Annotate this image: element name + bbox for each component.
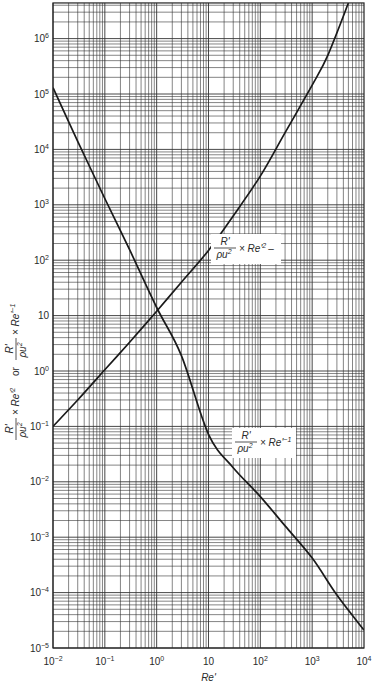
y-title-or: or: [10, 366, 21, 376]
svg-text:R': R': [241, 430, 251, 441]
svg-text:R': R': [220, 236, 230, 247]
x-axis-title: Re': [201, 672, 217, 683]
svg-text:R': R': [4, 423, 15, 433]
x-axis-title-text: Re': [201, 672, 217, 683]
log-log-chart: R'ρu2× Re'2–R'ρu2× Re'−1 106105104103102…: [0, 0, 378, 684]
annotation-suffix: × Re'2–: [239, 242, 274, 254]
annotation-suffix: × Re'2: [9, 388, 21, 415]
y-tick-label: 10: [38, 310, 50, 321]
svg-text:R': R': [4, 343, 15, 353]
x-tick-label: 10: [203, 656, 215, 667]
